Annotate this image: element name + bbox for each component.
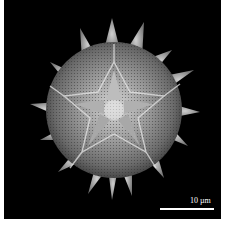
- scale-bar: [160, 208, 214, 210]
- micrograph-frame: 10 µm: [4, 0, 221, 219]
- scale-bar-label: 10 µm: [190, 196, 220, 205]
- pollen-grain-image: [4, 0, 221, 219]
